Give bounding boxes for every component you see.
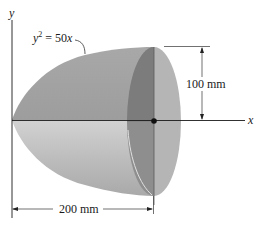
equation-leader-line: [75, 40, 85, 54]
y-axis-label: y: [8, 6, 15, 20]
diagram-svg: y x y2 = 50x 100 mm 200 mm: [0, 0, 262, 235]
radius-arrow-bottom-icon: [200, 114, 204, 120]
equation-x: x: [66, 31, 73, 45]
centroid-dot: [151, 118, 157, 124]
x-axis-label: x: [247, 113, 254, 127]
radius-arrow-top-icon: [200, 47, 204, 53]
equation-rest: = 50: [42, 31, 67, 45]
radius-dimension-label: 100 mm: [186, 77, 226, 91]
length-arrow-left-icon: [12, 207, 18, 211]
paraboloid-figure: y x y2 = 50x 100 mm 200 mm: [0, 0, 262, 235]
curve-equation-label: y2 = 50x: [32, 30, 73, 45]
length-arrow-right-icon: [147, 207, 153, 211]
length-dimension-label: 200 mm: [59, 202, 99, 216]
